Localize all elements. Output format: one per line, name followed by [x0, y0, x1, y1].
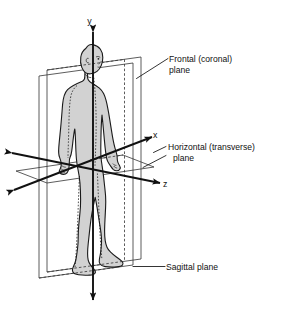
y-axis-label: y [87, 16, 92, 26]
horizontal-plane-label-line1: Horizontal (transverse) [168, 142, 255, 152]
frontal-plane-label-line2: plane [169, 65, 190, 75]
leader-line-group [133, 59, 168, 267]
body-silhouette [59, 66, 123, 275]
anatomical-planes-diagram: y x z Frontal (coronal) plane Horizontal… [0, 0, 290, 311]
frontal-plane-label-line1: Frontal (coronal) [169, 54, 232, 64]
horizontal-leader-line-lower [143, 156, 166, 168]
eye-pupil [98, 58, 100, 60]
sagittal-plane-label: Sagittal plane [166, 262, 218, 272]
diagram-canvas: y x z Frontal (coronal) plane Horizontal… [0, 0, 290, 311]
horizontal-leader-line-upper [154, 147, 167, 153]
horizontal-plane-label-line2: plane [173, 153, 194, 163]
x-axis-label: x [153, 130, 158, 140]
z-axis-label: z [163, 179, 167, 189]
text-label-group: Frontal (coronal) plane Horizontal (tran… [166, 54, 255, 272]
head-shape [81, 44, 103, 73]
